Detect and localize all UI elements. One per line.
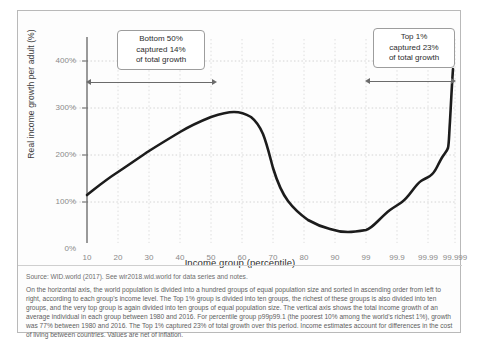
annotation-top-1-arrowhead-right xyxy=(451,78,456,84)
annotation-top-1-line-3: of total growth xyxy=(379,53,449,64)
annotation-bottom-50-line-2: captured 14% xyxy=(123,45,199,56)
annotation-bottom-50-line-3: of total growth xyxy=(123,55,199,66)
vertical-gridlines xyxy=(118,39,455,243)
y-tick-label-300: 300% xyxy=(42,104,76,112)
figure-footnote: Source: WID.world (2017). See wir2018.wi… xyxy=(18,265,462,333)
annotation-bottom-50-arrow-line xyxy=(89,82,215,83)
chart-plot-area: Real income growth per adult (%) xyxy=(18,11,462,243)
elephant-curve xyxy=(87,69,453,232)
annotation-bottom-50-line-1: Bottom 50% xyxy=(123,34,199,45)
y-tick-label-0: 0% xyxy=(42,245,76,253)
annotation-top-1-arrowhead-left xyxy=(365,78,370,84)
annotation-top-1-arrow-line xyxy=(368,81,454,82)
annotation-bottom-50-arrowhead-left xyxy=(86,79,91,85)
y-tick-label-200: 200% xyxy=(42,151,76,159)
figure-frame: Real income growth per adult (%) xyxy=(17,10,461,333)
annotation-bottom-50-box: Bottom 50% captured 14% of total growth xyxy=(117,30,205,70)
annotation-top-1-box: Top 1% captured 23% of total growth xyxy=(373,28,455,68)
annotation-top-1-line-2: captured 23% xyxy=(379,43,449,54)
source-line: Source: WID.world (2017). See wir2018.wi… xyxy=(26,272,454,281)
note-paragraph: On the horizontal axis, the world popula… xyxy=(26,285,454,340)
annotation-top-1-line-1: Top 1% xyxy=(379,32,449,43)
y-tick-label-400: 400% xyxy=(42,57,76,65)
annotation-bottom-50-arrowhead-right xyxy=(212,79,217,85)
y-axis-title: Real income growth per adult (%) xyxy=(26,19,36,169)
y-tick-label-100: 100% xyxy=(42,198,76,206)
